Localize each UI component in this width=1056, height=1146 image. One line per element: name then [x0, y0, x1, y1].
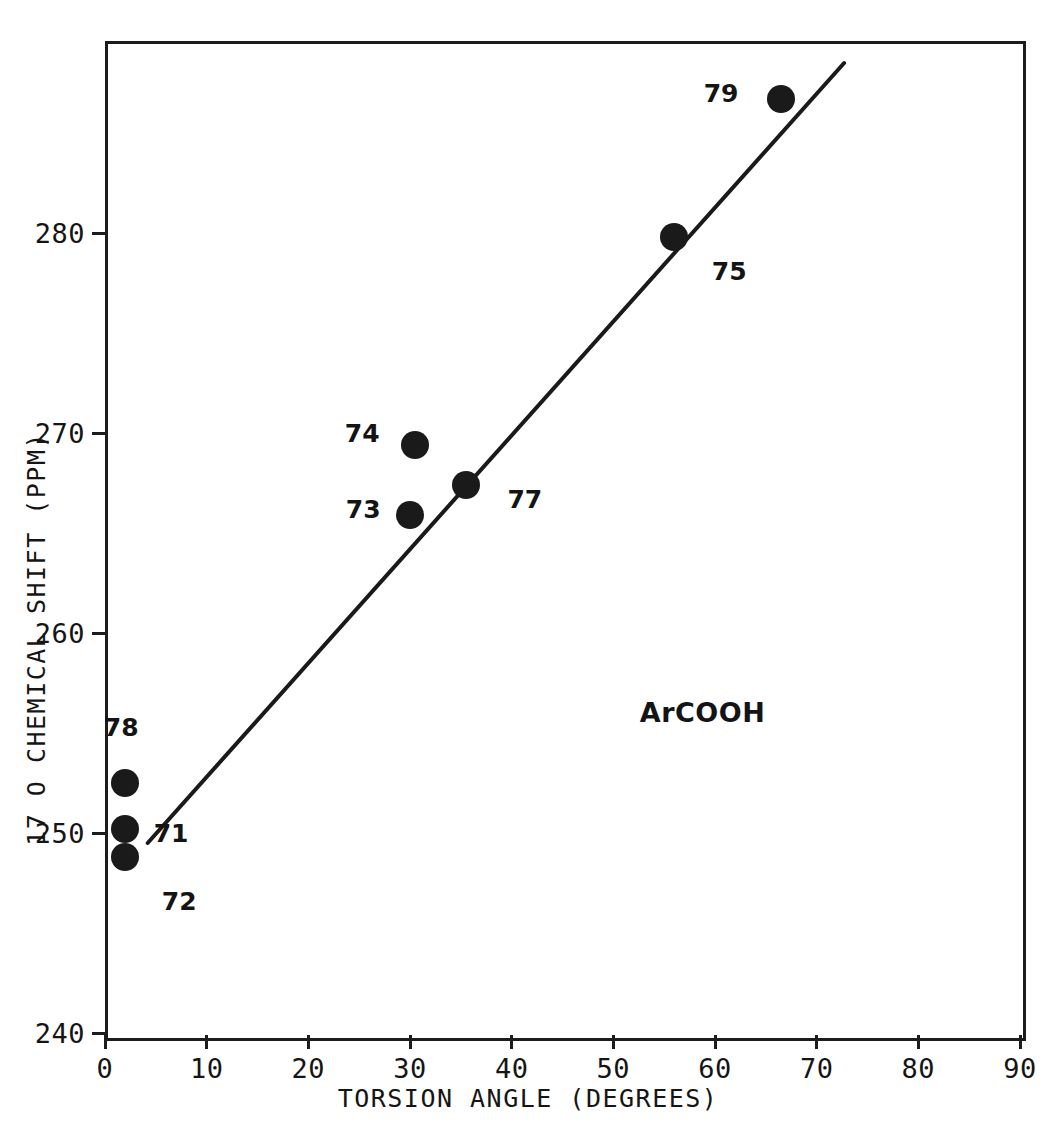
x-ticklabel-80: 80	[902, 1053, 936, 1084]
x-tick-50	[612, 1035, 615, 1049]
data-point-label-73: 73	[346, 495, 381, 524]
y-tick-280	[92, 232, 106, 235]
x-tick-10	[205, 1035, 208, 1049]
data-point-label-74: 74	[345, 419, 380, 448]
x-ticklabel-60: 60	[698, 1053, 732, 1084]
data-point-label-78: 78	[104, 713, 139, 742]
x-tick-80	[917, 1035, 920, 1049]
data-point-label-71: 71	[154, 819, 189, 848]
data-point-label-77: 77	[507, 485, 542, 514]
x-ticklabel-70: 70	[800, 1053, 834, 1084]
data-point-77	[452, 471, 480, 499]
y-tick-250	[92, 832, 106, 835]
plot-frame	[105, 41, 1026, 1041]
y-tick-260	[92, 632, 106, 635]
x-ticklabel-50: 50	[597, 1053, 631, 1084]
data-point-label-79: 79	[704, 79, 739, 108]
x-ticklabel-20: 20	[292, 1053, 326, 1084]
x-tick-40	[510, 1035, 513, 1049]
x-tick-70	[815, 1035, 818, 1049]
data-point-label-72: 72	[162, 887, 197, 916]
x-tick-20	[307, 1035, 310, 1049]
y-ticklabel-240: 240	[0, 1018, 85, 1049]
annotation-arcooh: ArCOOH	[640, 697, 766, 728]
y-axis-title-wrapper: 17 O CHEMICAL SHIFT (PPM)	[22, 432, 56, 852]
x-ticklabel-0: 0	[97, 1053, 114, 1084]
x-tick-30	[409, 1035, 412, 1049]
y-tick-270	[92, 432, 106, 435]
y-ticklabel-280: 280	[0, 218, 85, 249]
x-ticklabel-40: 40	[495, 1053, 529, 1084]
x-ticklabel-90: 90	[1003, 1053, 1037, 1084]
x-tick-60	[714, 1035, 717, 1049]
x-tick-0	[104, 1035, 107, 1049]
data-point-74	[401, 431, 429, 459]
data-point-79	[767, 85, 795, 113]
x-tick-90	[1019, 1035, 1022, 1049]
x-ticklabel-30: 30	[393, 1053, 427, 1084]
chart-figure: 0102030405060708090 240250260270280 7871…	[0, 0, 1056, 1146]
y-tick-240	[92, 1032, 106, 1035]
x-ticklabel-10: 10	[190, 1053, 224, 1084]
x-axis-title: TORSION ANGLE (DEGREES)	[0, 1084, 1056, 1113]
y-axis-title: 17 O CHEMICAL SHIFT (PPM)	[22, 432, 51, 846]
data-point-73	[396, 501, 424, 529]
data-point-label-75: 75	[712, 257, 747, 286]
